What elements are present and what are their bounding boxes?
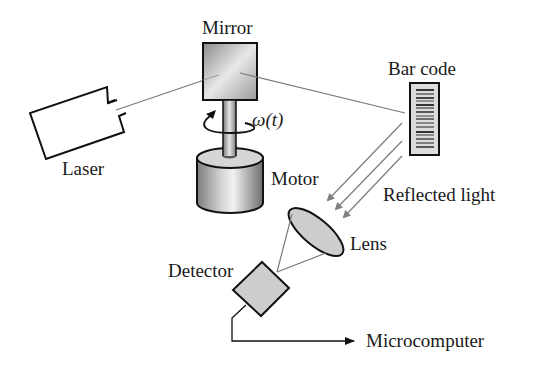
output-signal-arrow — [232, 305, 354, 341]
scan-beam — [240, 73, 405, 113]
lens — [282, 200, 351, 264]
bar-code-label: Bar code — [388, 58, 456, 79]
motor-label: Motor — [271, 168, 319, 189]
motor-shaft — [223, 100, 236, 152]
mirror — [203, 43, 257, 100]
motor — [197, 146, 263, 213]
mirror-label: Mirror — [202, 17, 253, 38]
laser-label: Laser — [62, 158, 105, 179]
laser — [30, 87, 126, 159]
bar-code — [410, 83, 439, 155]
microcomputer-label: Microcomputer — [366, 330, 485, 351]
laser-body — [30, 87, 126, 159]
reflected-light-label: Reflected light — [383, 184, 496, 205]
lens-label: Lens — [350, 233, 387, 254]
detector-label: Detector — [168, 260, 234, 281]
bar-code-scanner-diagram: Laser Mirror ω(t) Motor Bar code — [0, 0, 541, 368]
omega-label: ω(t) — [252, 109, 283, 131]
